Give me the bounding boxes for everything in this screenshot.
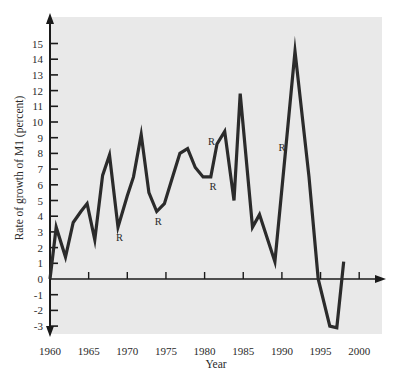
recession-label: R (116, 232, 123, 243)
y-tick-label: 8 (38, 147, 44, 159)
x-tick-label: 1985 (232, 345, 255, 357)
y-tick-label: 14 (32, 53, 44, 65)
x-tick-label: 1990 (271, 345, 294, 357)
y-tick-label: 1 (38, 257, 44, 269)
y-tick-label: 4 (38, 210, 44, 222)
x-tick-label: 1980 (194, 345, 217, 357)
x-axis-title: Year (205, 358, 226, 370)
recession-label: R (210, 181, 217, 192)
y-tick-label: 13 (32, 69, 44, 81)
x-tick-label: 1995 (310, 345, 333, 357)
m1-growth-chart: -3-2-10123456789101112131415 19601965197… (0, 0, 395, 385)
y-tick-label: 3 (38, 226, 44, 238)
y-tick-label: 2 (38, 242, 44, 254)
y-tick-label: 5 (38, 195, 44, 207)
x-tick-label: 1975 (155, 345, 178, 357)
recession-label: R (278, 142, 285, 153)
y-tick-label: 10 (32, 116, 44, 128)
y-tick-label: 12 (32, 85, 43, 97)
y-tick-label: 6 (38, 179, 44, 191)
recession-label: R (208, 136, 215, 147)
y-tick-label: 7 (38, 163, 44, 175)
y-tick-label: 9 (38, 132, 44, 144)
y-tick-label: 15 (32, 38, 44, 50)
y-axis-title: Rate of growth of M1 (percent) (13, 96, 26, 241)
x-tick-label: 1970 (116, 345, 139, 357)
y-tick-label: -2 (34, 304, 43, 316)
y-tick-label: 11 (32, 100, 43, 112)
x-tick-label: 1965 (78, 345, 101, 357)
plot-background (50, 17, 382, 334)
recession-label: R (155, 216, 162, 227)
x-tick-label: 1960 (39, 345, 62, 357)
y-tick-label: 0 (38, 273, 44, 285)
x-tick-label: 2000 (348, 345, 371, 357)
y-tick-label: -1 (34, 289, 43, 301)
y-tick-label: -3 (34, 320, 44, 332)
